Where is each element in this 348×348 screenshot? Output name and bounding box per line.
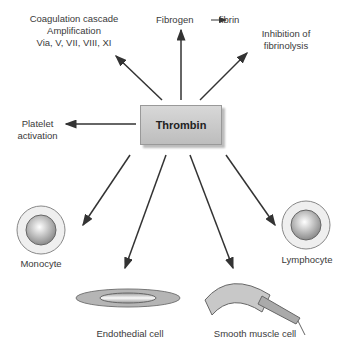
fibrinogen-label: Fibrogen fibrin	[156, 14, 239, 26]
thrombin-box: Thrombin	[140, 105, 222, 145]
arrow-layer	[0, 0, 348, 348]
lymphocyte-label: Lymphocyte	[272, 254, 342, 266]
monocyte-label: Monocyte	[10, 258, 72, 270]
lymphocyte-icon	[282, 201, 330, 249]
arrows	[66, 30, 275, 268]
monocyte-icon	[17, 206, 65, 254]
endothelial-label: Endothedial cell	[80, 328, 180, 340]
platelet-label: Platelet activation	[10, 118, 65, 142]
coagulation-label: Coagulation cascade Amplification Via, V…	[4, 13, 144, 49]
endothelial-cell-icon	[76, 289, 180, 307]
thrombin-label: Thrombin	[156, 119, 207, 131]
smooth-muscle-label: Smooth muscle cell	[200, 328, 310, 340]
fibrinolysis-label: Inhibition of fibrinolysis	[246, 28, 326, 52]
